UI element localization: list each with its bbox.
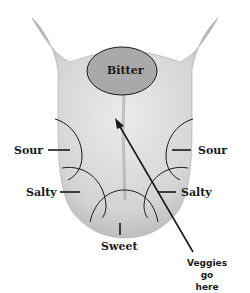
sour-label-right: Sour <box>198 145 227 156</box>
annotation-line-2: here <box>181 281 233 293</box>
salty-label-left: Salty <box>26 187 57 198</box>
sour-label-left: Sour <box>14 145 43 156</box>
sweet-label: Sweet <box>101 241 138 252</box>
annotation-line-1: Veggies go <box>181 257 233 281</box>
bitter-label: Bitter <box>107 65 143 76</box>
veggies-annotation: Veggies go here <box>181 257 233 293</box>
tongue-diagram: Bitter Sour Sour Salty Salty Sweet Veggi… <box>0 0 250 293</box>
salty-label-right: Salty <box>181 187 212 198</box>
